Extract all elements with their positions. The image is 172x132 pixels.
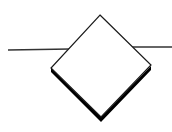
diagram-canvas	[0, 0, 172, 132]
decision-diamond[interactable]	[51, 15, 151, 117]
left-connector-line	[8, 49, 70, 50]
